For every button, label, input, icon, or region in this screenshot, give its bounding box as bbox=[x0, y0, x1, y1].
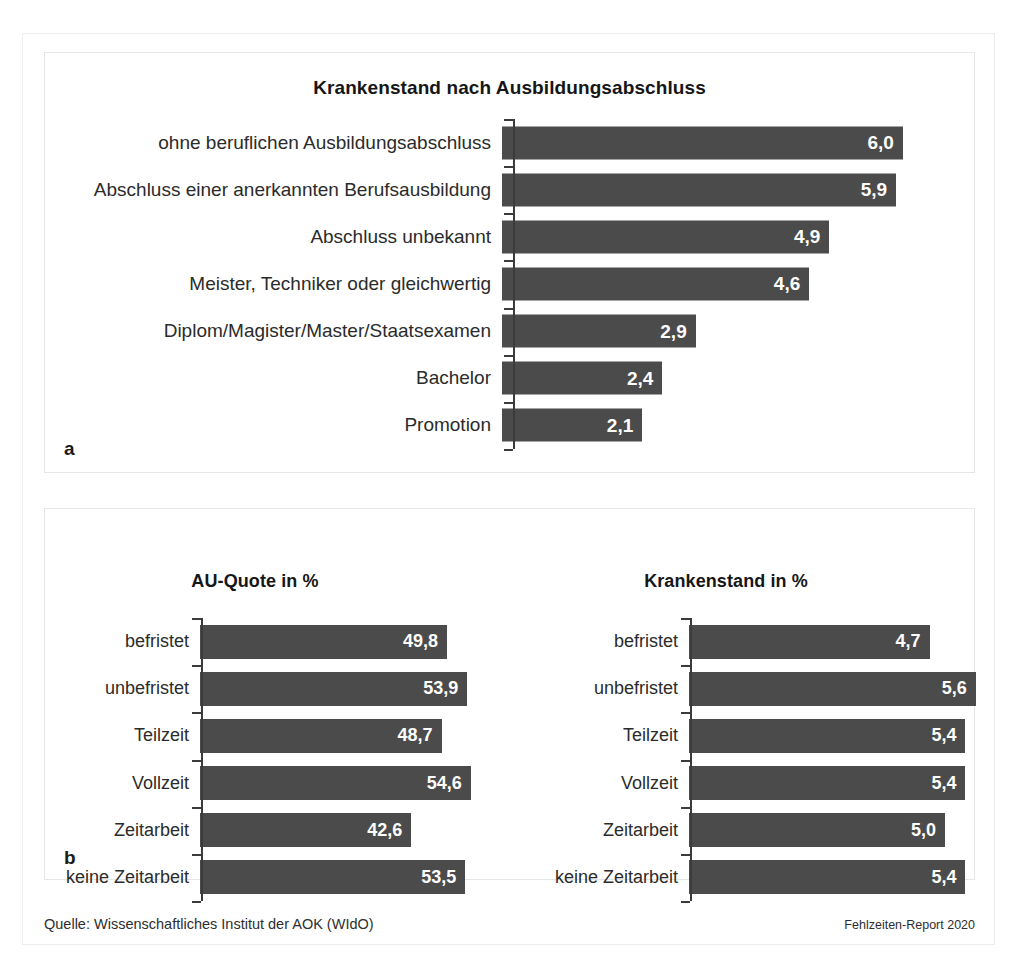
bar-value-label: 4,9 bbox=[794, 226, 829, 248]
chart-b-right-title: Krankenstand in % bbox=[511, 571, 941, 592]
axis-tick bbox=[192, 712, 201, 714]
bar: 48,7 bbox=[200, 719, 442, 753]
bar-category-label: ohne beruflichen Ausbildungsabschluss bbox=[45, 132, 502, 154]
chart-b-left-title: AU-Quote in % bbox=[45, 571, 465, 592]
bar-value-label: 4,7 bbox=[896, 631, 930, 652]
bar-track: 5,0 bbox=[689, 807, 976, 854]
bar-track: 5,4 bbox=[689, 712, 976, 759]
bar-track: 42,6 bbox=[200, 807, 511, 854]
bar-row: Zeitarbeit42,6 bbox=[45, 807, 511, 854]
bar-row: Bachelor2,4 bbox=[45, 355, 976, 402]
bar: 4,6 bbox=[502, 267, 809, 300]
chart-b-right-body: befristet4,7unbefristet5,6Teilzeit5,4Vol… bbox=[511, 618, 976, 901]
axis-tick bbox=[504, 308, 513, 310]
bar-category-label: Promotion bbox=[45, 414, 502, 436]
bar: 5,4 bbox=[689, 860, 965, 894]
footer-source: Quelle: Wissenschaftliches Institut der … bbox=[44, 916, 374, 932]
bar-row: Teilzeit48,7 bbox=[45, 712, 511, 759]
bar-value-label: 5,4 bbox=[931, 867, 965, 888]
bar-track: 4,7 bbox=[689, 618, 976, 665]
bar-row: Vollzeit54,6 bbox=[45, 759, 511, 806]
bar-track: 5,4 bbox=[689, 759, 976, 806]
axis-tick bbox=[504, 449, 513, 451]
bar-category-label: Abschluss einer anerkannten Berufsausbil… bbox=[45, 179, 502, 201]
bar-value-label: 49,8 bbox=[403, 631, 447, 652]
bar: 5,4 bbox=[689, 719, 965, 753]
chart-a-plot-area: ohne beruflichen Ausbildungsabschluss6,0… bbox=[45, 119, 976, 449]
axis-tick bbox=[192, 618, 201, 620]
panel-b: AU-Quote in % befristet49,8unbefristet53… bbox=[44, 508, 975, 880]
chart-b-right: Krankenstand in % befristet4,7unbefriste… bbox=[511, 571, 976, 871]
bar-track: 2,4 bbox=[502, 355, 976, 402]
bar-track: 4,6 bbox=[502, 260, 976, 307]
axis-tick bbox=[504, 166, 513, 168]
axis-tick bbox=[681, 665, 690, 667]
bar-track: 5,4 bbox=[689, 854, 976, 901]
bar-value-label: 5,6 bbox=[942, 678, 976, 699]
bar-value-label: 2,4 bbox=[627, 367, 662, 389]
axis-tick bbox=[192, 901, 201, 903]
chart-b-right-plot-area: befristet4,7unbefristet5,6Teilzeit5,4Vol… bbox=[511, 618, 976, 901]
bar-category-label: keine Zeitarbeit bbox=[511, 867, 689, 888]
bar-row: keine Zeitarbeit53,5 bbox=[45, 854, 511, 901]
bar-row: Meister, Techniker oder gleichwertig4,6 bbox=[45, 260, 976, 307]
bar-category-label: unbefristet bbox=[511, 678, 689, 699]
bar-value-label: 2,1 bbox=[607, 414, 642, 436]
axis-tick bbox=[681, 807, 690, 809]
bar-value-label: 5,4 bbox=[931, 725, 965, 746]
bar-category-label: Vollzeit bbox=[45, 773, 200, 794]
bar-value-label: 5,4 bbox=[931, 773, 965, 794]
bar-category-label: Teilzeit bbox=[45, 725, 200, 746]
bar-track: 48,7 bbox=[200, 712, 511, 759]
bar-track: 53,9 bbox=[200, 665, 511, 712]
bar: 2,4 bbox=[502, 362, 662, 395]
chart-b-left-plot-area: befristet49,8unbefristet53,9Teilzeit48,7… bbox=[45, 618, 511, 901]
chart-a-title: Krankenstand nach Ausbildungsabschluss bbox=[45, 77, 974, 99]
bar-value-label: 6,0 bbox=[867, 132, 902, 154]
bar-value-label: 53,9 bbox=[423, 678, 467, 699]
bar-row: ohne beruflichen Ausbildungsabschluss6,0 bbox=[45, 119, 976, 166]
bar: 54,6 bbox=[200, 766, 471, 800]
bar: 5,6 bbox=[689, 672, 976, 706]
chart-b-left: AU-Quote in % befristet49,8unbefristet53… bbox=[45, 571, 511, 871]
bar-row: befristet4,7 bbox=[511, 618, 976, 665]
bar-category-label: Diplom/Magister/Master/Staatsexamen bbox=[45, 320, 502, 342]
category-axis-spine bbox=[201, 618, 203, 901]
bar-track: 54,6 bbox=[200, 759, 511, 806]
bar-track: 53,5 bbox=[200, 854, 511, 901]
bar-value-label: 53,5 bbox=[421, 867, 465, 888]
bar: 53,9 bbox=[200, 672, 467, 706]
axis-tick bbox=[504, 355, 513, 357]
panel-a-letter: a bbox=[64, 439, 75, 458]
bar-row: Promotion2,1 bbox=[45, 402, 976, 449]
bar: 6,0 bbox=[502, 126, 903, 159]
bar-category-label: Vollzeit bbox=[511, 773, 689, 794]
bar-track: 5,6 bbox=[689, 665, 976, 712]
bar-category-label: Teilzeit bbox=[511, 725, 689, 746]
bar-row: Diplom/Magister/Master/Staatsexamen2,9 bbox=[45, 308, 976, 355]
bar: 49,8 bbox=[200, 625, 447, 659]
axis-tick bbox=[681, 901, 690, 903]
bar-row: Teilzeit5,4 bbox=[511, 712, 976, 759]
bar-row: keine Zeitarbeit5,4 bbox=[511, 854, 976, 901]
axis-tick bbox=[192, 665, 201, 667]
bar-category-label: befristet bbox=[45, 631, 200, 652]
bar-category-label: befristet bbox=[511, 631, 689, 652]
bar-track: 5,9 bbox=[502, 166, 976, 213]
bar-track: 49,8 bbox=[200, 618, 511, 665]
chart-b-left-body: befristet49,8unbefristet53,9Teilzeit48,7… bbox=[45, 618, 511, 901]
bar: 42,6 bbox=[200, 813, 411, 847]
bar-category-label: Abschluss unbekannt bbox=[45, 226, 502, 248]
axis-tick bbox=[681, 618, 690, 620]
chart-a: ohne beruflichen Ausbildungsabschluss6,0… bbox=[45, 119, 976, 449]
bar-value-label: 4,6 bbox=[774, 273, 809, 295]
axis-tick bbox=[192, 807, 201, 809]
axis-tick bbox=[504, 402, 513, 404]
figure-root: Krankenstand nach Ausbildungsabschluss o… bbox=[0, 0, 1027, 979]
axis-tick bbox=[504, 213, 513, 215]
bar-category-label: Zeitarbeit bbox=[45, 820, 200, 841]
bar-value-label: 5,0 bbox=[911, 820, 945, 841]
bar: 5,0 bbox=[689, 813, 945, 847]
bar: 5,9 bbox=[502, 173, 896, 206]
bar-track: 4,9 bbox=[502, 213, 976, 260]
